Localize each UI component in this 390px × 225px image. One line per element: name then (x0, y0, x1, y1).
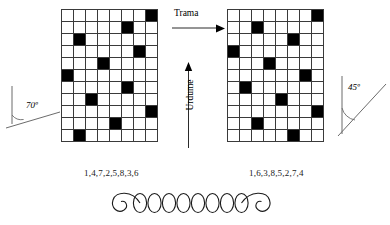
weave-cell-empty (62, 46, 74, 58)
weave-cell-empty (122, 10, 134, 22)
weave-cell-empty (74, 82, 86, 94)
weave-cell-empty (264, 130, 276, 142)
weave-cell-empty (240, 70, 252, 82)
yarn-loop (177, 194, 190, 213)
right-sequence-label: 1,6,3,8,5,2,7,4 (249, 168, 304, 178)
weave-cell-empty (62, 58, 74, 70)
weave-cell-empty (134, 106, 146, 118)
weave-cell-empty (312, 82, 324, 94)
weave-cell-empty (288, 70, 300, 82)
weave-cell-empty (110, 34, 122, 46)
weave-cell-empty (98, 34, 110, 46)
weave-cell-empty (240, 106, 252, 118)
left-sequence-label: 1,4,7,2,5,8,3,6 (84, 168, 139, 178)
weave-cell-empty (134, 10, 146, 22)
weave-cell-empty (276, 10, 288, 22)
weave-cell-empty (312, 46, 324, 58)
weave-cell-empty (74, 70, 86, 82)
weave-cell-empty (252, 94, 264, 106)
weave-cell-empty (300, 46, 312, 58)
weave-cell-empty (122, 70, 134, 82)
weave-cell-empty (86, 34, 98, 46)
weave-cell-empty (300, 10, 312, 22)
weave-cell-empty (312, 58, 324, 70)
weave-cell-empty (264, 94, 276, 106)
weave-cell-filled (252, 118, 264, 130)
weave-cell-empty (252, 10, 264, 22)
weave-cell-empty (134, 22, 146, 34)
weave-cell-empty (288, 82, 300, 94)
weave-cell-empty (228, 70, 240, 82)
weave-cell-empty (110, 106, 122, 118)
weave-cell-empty (146, 34, 158, 46)
weave-cell-empty (228, 58, 240, 70)
weave-cell-empty (240, 10, 252, 22)
weave-cell-empty (264, 34, 276, 46)
weave-cell-empty (264, 70, 276, 82)
weave-cell-empty (62, 10, 74, 22)
weave-cell-empty (288, 106, 300, 118)
weave-cell-empty (288, 22, 300, 34)
weave-cell-empty (146, 94, 158, 106)
weave-cell-empty (134, 34, 146, 46)
weave-cell-filled (62, 70, 74, 82)
weave-cell-empty (134, 130, 146, 142)
weave-cell-empty (74, 10, 86, 22)
weft-direction-label: Trama (174, 8, 198, 18)
weave-cell-empty (98, 130, 110, 142)
weave-cell-empty (146, 118, 158, 130)
weave-cell-empty (240, 94, 252, 106)
weave-cell-empty (300, 118, 312, 130)
weave-cell-filled (146, 106, 158, 118)
weave-cell-empty (86, 82, 98, 94)
weave-cell-empty (122, 106, 134, 118)
left-angle-value: 70º (26, 100, 38, 110)
weave-cell-empty (264, 22, 276, 34)
weave-cell-empty (300, 34, 312, 46)
weave-cell-empty (146, 70, 158, 82)
weave-cell-empty (74, 118, 86, 130)
weave-cell-empty (110, 58, 122, 70)
weave-cell-empty (110, 82, 122, 94)
weave-cell-filled (252, 22, 264, 34)
weave-cell-filled (86, 94, 98, 106)
weave-cell-empty (264, 46, 276, 58)
weave-cell-empty (240, 118, 252, 130)
weave-cell-empty (300, 106, 312, 118)
weave-cell-empty (300, 22, 312, 34)
weave-cell-empty (228, 118, 240, 130)
weave-cell-empty (98, 106, 110, 118)
weave-cell-empty (86, 70, 98, 82)
weave-cell-empty (228, 106, 240, 118)
weave-cell-empty (276, 58, 288, 70)
weave-cell-filled (300, 70, 312, 82)
weave-cell-filled (312, 10, 324, 22)
weave-cell-empty (134, 118, 146, 130)
weave-cell-empty (146, 82, 158, 94)
weave-cell-empty (86, 130, 98, 142)
weave-cell-empty (98, 82, 110, 94)
right-angle-icon (334, 76, 390, 138)
right-angle-group: 45º (334, 76, 390, 138)
weave-cell-filled (146, 10, 158, 22)
weave-cell-empty (288, 58, 300, 70)
weave-cell-empty (228, 82, 240, 94)
weave-cell-empty (62, 34, 74, 46)
weave-cell-empty (276, 34, 288, 46)
weave-cell-empty (134, 58, 146, 70)
warp-direction-group: Urdume (181, 62, 207, 148)
yarn-loop (206, 194, 219, 213)
weave-cell-empty (110, 22, 122, 34)
weave-cell-empty (146, 130, 158, 142)
weave-cell-filled (98, 58, 110, 70)
weave-cell-filled (312, 106, 324, 118)
weave-cell-empty (146, 46, 158, 58)
weave-cell-filled (264, 58, 276, 70)
weave-cell-filled (276, 94, 288, 106)
weave-cell-empty (252, 106, 264, 118)
weave-cell-empty (86, 58, 98, 70)
weave-cell-empty (240, 130, 252, 142)
weave-cell-filled (122, 22, 134, 34)
weave-cell-empty (134, 82, 146, 94)
weave-cell-empty (146, 58, 158, 70)
